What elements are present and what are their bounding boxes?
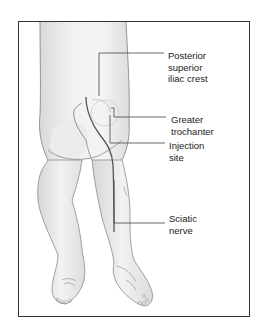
label-injection-site: Injection site (169, 140, 204, 163)
left-leg (38, 160, 85, 304)
left-buttock (50, 120, 88, 159)
label-posterior-superior-iliac-crest: Posterior superior iliac crest (168, 50, 208, 85)
label-sciatic-nerve: Sciatic nerve (169, 213, 197, 236)
right-leg (92, 160, 153, 306)
label-greater-trochanter: Greater trochanter (171, 114, 214, 137)
child-posterior-illustration (0, 0, 264, 329)
